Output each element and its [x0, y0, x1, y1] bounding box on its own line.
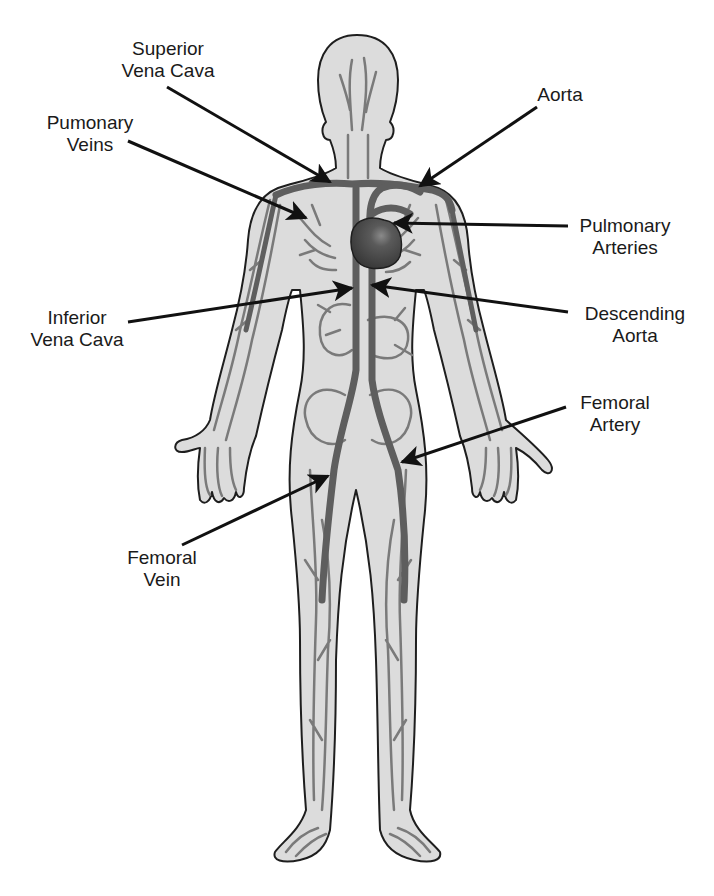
label-line: Artery [560, 414, 670, 436]
label-line: Vena Cava [12, 329, 142, 351]
label-line: Inferior [12, 307, 142, 329]
body-silhouette [175, 35, 552, 862]
label-superior-vena-cava: Superior Vena Cava [88, 38, 248, 82]
label-pulmonary-arteries: Pulmonary Arteries [565, 215, 685, 259]
label-line: Aorta [565, 325, 705, 347]
label-aorta: Aorta [510, 84, 610, 106]
label-line: Superior [88, 38, 248, 60]
label-line: Femoral [560, 392, 670, 414]
arrow-aorta [420, 107, 537, 186]
label-femoral-vein: Femoral Vein [112, 547, 212, 591]
heart [351, 218, 401, 268]
label-line: Vein [112, 569, 212, 591]
label-inferior-vena-cava: Inferior Vena Cava [12, 307, 142, 351]
label-pumonary-veins: Pumonary Veins [20, 112, 160, 156]
label-line: Femoral [112, 547, 212, 569]
label-line: Descending [565, 303, 705, 325]
label-line: Aorta [510, 84, 610, 106]
label-line: Veins [20, 134, 160, 156]
label-line: Pulmonary [565, 215, 685, 237]
label-line: Arteries [565, 237, 685, 259]
label-line: Vena Cava [88, 60, 248, 82]
label-line: Pumonary [20, 112, 160, 134]
label-femoral-artery: Femoral Artery [560, 392, 670, 436]
label-descending-aorta: Descending Aorta [565, 303, 705, 347]
